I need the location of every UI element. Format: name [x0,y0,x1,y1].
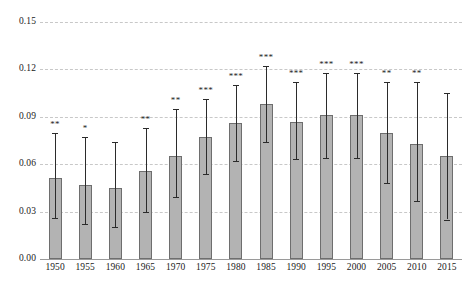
error-cap-upper-1975 [203,99,209,100]
error-cap-upper-1955 [82,137,88,138]
error-bar-1970 [176,109,177,197]
error-cap-lower-2015 [444,220,450,221]
error-cap-lower-1995 [323,158,329,159]
bar-chart-with-error-bars: 0.000.030.060.090.120.15 ***************… [0,0,473,295]
gridline-0.03 [40,212,462,213]
error-bar-2005 [387,82,388,183]
x-tick-label-2015: 2015 [427,263,467,273]
significance-marker-1980: *** [216,72,256,81]
significance-marker-2010: ** [397,69,437,78]
significance-marker-1975: *** [186,86,226,95]
error-cap-upper-1995 [323,73,329,74]
error-bar-2010 [417,82,418,201]
gridline-0.09 [40,117,462,118]
error-cap-lower-1985 [263,142,269,143]
error-cap-upper-2000 [354,73,360,74]
error-cap-upper-2005 [384,82,390,83]
error-bar-1980 [236,85,237,161]
error-cap-upper-2015 [444,93,450,94]
y-tick-label: 0.09 [2,112,36,122]
significance-marker-1965: ** [126,115,166,124]
y-axis-tick-labels: 0.000.030.060.090.120.15 [0,22,36,259]
significance-marker-1990: *** [276,69,316,78]
error-cap-upper-1960 [112,142,118,143]
x-axis-tick-labels: 1950195519601965197019751980198519901995… [40,263,462,283]
error-cap-lower-1955 [82,224,88,225]
error-cap-lower-2010 [414,201,420,202]
error-bar-2000 [357,73,358,158]
gridline-0.15 [40,22,462,23]
error-cap-upper-1990 [293,82,299,83]
error-cap-lower-1965 [143,212,149,213]
error-cap-lower-1950 [52,218,58,219]
significance-marker-1985: *** [246,53,286,62]
error-cap-upper-1950 [52,133,58,134]
gridline-0.06 [40,164,462,165]
error-cap-lower-1960 [112,227,118,228]
plot-area: ***************************** [40,22,462,259]
error-cap-lower-1975 [203,174,209,175]
error-bar-1990 [296,82,297,159]
error-cap-lower-1980 [233,161,239,162]
error-bar-2015 [447,93,448,219]
error-bar-1975 [206,99,207,173]
error-cap-upper-2010 [414,82,420,83]
y-tick-label: 0.12 [2,64,36,74]
significance-marker-1970: ** [156,96,196,105]
significance-marker-2000: *** [337,60,377,69]
error-bar-1960 [115,142,116,227]
error-cap-lower-2005 [384,183,390,184]
error-bar-1985 [266,66,267,142]
error-cap-upper-1985 [263,66,269,67]
error-cap-lower-1990 [293,159,299,160]
error-cap-upper-1970 [173,109,179,110]
y-tick-label: 0.06 [2,159,36,169]
y-tick-label: 0.00 [2,254,36,264]
x-axis-line [40,259,462,260]
error-cap-lower-2000 [354,158,360,159]
y-tick-label: 0.15 [2,17,36,27]
error-cap-upper-1980 [233,85,239,86]
error-cap-upper-1965 [143,128,149,129]
y-tick-label: 0.03 [2,207,36,217]
error-cap-lower-1970 [173,197,179,198]
error-bar-1955 [85,137,86,224]
error-bar-1950 [55,133,56,218]
error-bar-1965 [146,128,147,212]
significance-marker-1955: * [65,124,105,133]
error-bar-1995 [326,73,327,158]
